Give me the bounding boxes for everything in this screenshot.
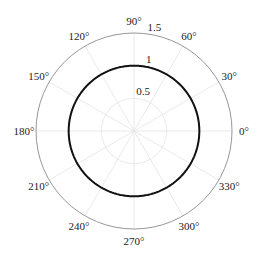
theta-tick-label: 90°: [126, 15, 141, 27]
theta-tick-label: 60°: [181, 30, 196, 42]
r-tick-label: 1: [146, 53, 152, 65]
r-tick-label: 1.5: [148, 21, 162, 33]
theta-tick-label: 180°: [14, 125, 35, 137]
theta-tick-label: 0°: [239, 125, 249, 137]
theta-gridline-210: [49, 131, 134, 180]
theta-gridline-300: [134, 131, 183, 216]
theta-gridline-120: [85, 46, 134, 131]
polar-chart: 0°30°60°90°120°150°180°210°240°270°300°3…: [0, 0, 261, 262]
theta-tick-label: 150°: [28, 70, 49, 82]
theta-tick-label: 30°: [222, 70, 237, 82]
theta-gridline-330: [134, 131, 219, 180]
theta-tick-label: 270°: [124, 235, 145, 247]
theta-tick-label: 240°: [69, 220, 90, 232]
r-tick-label: 0.5: [136, 85, 150, 97]
grid-layer: [36, 33, 232, 229]
theta-tick-label: 300°: [179, 220, 200, 232]
theta-tick-label: 210°: [28, 180, 49, 192]
theta-tick-label: 330°: [219, 180, 240, 192]
theta-tick-label: 120°: [69, 30, 90, 42]
theta-gridline-240: [85, 131, 134, 216]
theta-gridline-150: [49, 82, 134, 131]
